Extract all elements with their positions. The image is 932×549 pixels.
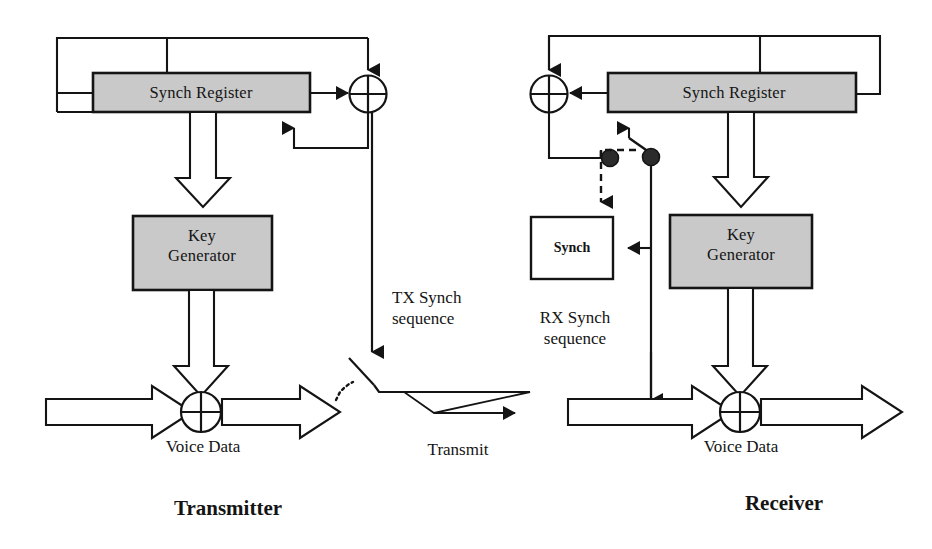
transmit-channel-label: Transmit	[428, 440, 489, 460]
diagram-canvas: Synch Register Key Generator Voice Data …	[0, 0, 932, 549]
tx-xor-feedback-return	[294, 113, 368, 149]
tx-voice-data-label: Voice Data	[166, 437, 241, 457]
rx-key-generator-label: Key Generator	[707, 225, 775, 265]
tx-cipher-out-arrow	[222, 386, 340, 438]
transmit-channel-wedge	[404, 392, 530, 413]
tx-transmit-switch[interactable]	[336, 358, 404, 400]
rx-synch-sequence-line2: sequence	[540, 329, 610, 350]
rx-synch-label: Synch	[554, 240, 591, 256]
rx-voice-output-arrow	[761, 386, 902, 438]
rx-register-to-keygen-arrow	[714, 112, 768, 207]
diagram-vector-layer	[0, 0, 932, 549]
rx-synch-sequence-label: RX Synch sequence	[540, 308, 610, 349]
tx-key-generator-label-line2: Generator	[168, 246, 236, 266]
tx-voice-input-arrow	[46, 386, 192, 438]
rx-xor-output-to-switch	[549, 113, 606, 159]
receiver-section-label: Receiver	[745, 491, 823, 516]
rx-voice-data-label: Voice Data	[704, 437, 779, 457]
rx-keygen-to-voicexor-arrow	[713, 288, 767, 396]
tx-key-generator-label-line1: Key	[168, 226, 236, 246]
rx-key-generator-label-line2: Generator	[707, 245, 775, 265]
tx-synch-sequence-line1: TX Synch	[392, 288, 461, 309]
rx-voice-xor-operator	[720, 392, 760, 432]
tx-register-to-keygen-arrow	[176, 112, 230, 207]
rx-synch-register-label: Synch Register	[682, 83, 785, 103]
rx-synch-sequence-line1: RX Synch	[540, 308, 610, 329]
rx-feedback-xor-operator	[531, 76, 568, 113]
tx-keygen-to-voicexor-arrow	[174, 290, 228, 396]
tx-synch-register-label: Synch Register	[149, 83, 252, 103]
rx-key-generator-label-line1: Key	[707, 225, 775, 245]
tx-voice-xor-operator	[181, 392, 221, 432]
tx-synch-sequence-label: TX Synch sequence	[392, 288, 461, 329]
tx-feedback-xor-operator	[350, 76, 387, 113]
tx-synch-sequence-line2: sequence	[392, 309, 461, 330]
tx-key-generator-label: Key Generator	[168, 226, 236, 266]
transmitter-section-label: Transmitter	[174, 496, 282, 521]
